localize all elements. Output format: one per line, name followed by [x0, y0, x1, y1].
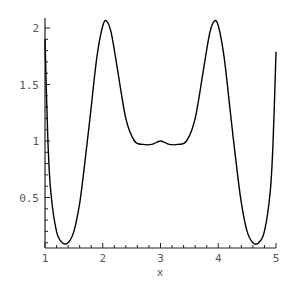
y-tick-label: 2: [32, 22, 39, 35]
data-curve: [45, 20, 276, 244]
y-tick-label: 0.5: [19, 192, 39, 205]
x-axis-title: x: [157, 266, 164, 279]
x-tick-label: 3: [157, 252, 164, 265]
x-tick-label: 1: [42, 252, 49, 265]
x-tick-label: 5: [273, 252, 280, 265]
x-axis: 12345: [42, 243, 280, 265]
y-tick-label: 1.5: [19, 79, 39, 92]
x-tick-label: 2: [99, 252, 106, 265]
y-tick-label: 1: [32, 135, 39, 148]
x-tick-label: 4: [215, 252, 222, 265]
chart: 0.511.52 12345 x: [0, 0, 302, 294]
